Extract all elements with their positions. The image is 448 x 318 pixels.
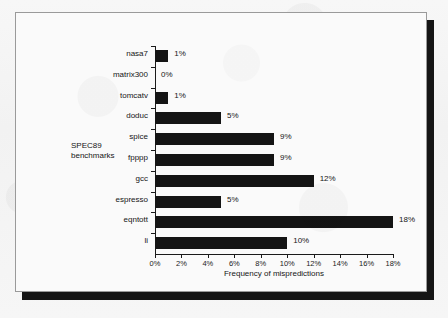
y-axis-title: SPEC89 benchmarks: [71, 141, 115, 161]
bar-value-label: 18%: [399, 215, 415, 224]
bar-value-label: 1%: [174, 49, 186, 58]
y-axis-tick: [151, 88, 155, 89]
bar-row: li10%: [155, 233, 393, 254]
x-axis-tick-label: 0%: [150, 259, 161, 268]
y-axis-title-line-1: SPEC89: [71, 141, 115, 151]
category-label: doduc: [126, 111, 148, 120]
x-axis-tick: [155, 254, 156, 258]
bar: [155, 50, 168, 62]
y-axis-tick: [151, 192, 155, 193]
x-axis-tick: [261, 254, 262, 258]
x-axis-tick: [340, 254, 341, 258]
y-axis-tick: [151, 67, 155, 68]
category-label: li: [144, 236, 148, 245]
x-axis-tick-label: 4%: [202, 259, 213, 268]
x-axis-tick-label: 8%: [255, 259, 266, 268]
bar-row: fpppp9%: [155, 150, 393, 171]
x-axis-tick: [314, 254, 315, 258]
bar-row: doduc5%: [155, 108, 393, 129]
bar-value-label: 5%: [227, 111, 239, 120]
x-axis-tick-label: 18%: [385, 259, 400, 268]
plot-area: nasa71%matrix3000%tomcatv1%doduc5%spice9…: [155, 46, 393, 254]
bar: [155, 133, 274, 145]
bar-value-label: 12%: [320, 174, 336, 183]
bar: [155, 92, 168, 104]
bar: [155, 237, 287, 249]
x-axis-tick-label: 2%: [176, 259, 187, 268]
x-axis-tick: [234, 254, 235, 258]
bar-row: gcc12%: [155, 171, 393, 192]
x-axis-tick-label: 12%: [306, 259, 321, 268]
bar-value-label: 9%: [280, 132, 292, 141]
category-label: eqntott: [124, 215, 148, 224]
y-axis-tick: [151, 108, 155, 109]
y-axis-tick: [151, 150, 155, 151]
bar: [155, 196, 221, 208]
y-axis-tick: [151, 212, 155, 213]
y-axis-tick: [151, 46, 155, 47]
bar: [155, 175, 314, 187]
y-axis-title-line-2: benchmarks: [71, 151, 115, 161]
bar: [155, 216, 393, 228]
category-label: gcc: [136, 174, 148, 183]
x-axis-tick-label: 14%: [333, 259, 348, 268]
category-label: tomcatv: [120, 91, 148, 100]
bar-value-label: 1%: [174, 91, 186, 100]
y-axis-tick: [151, 129, 155, 130]
category-label: nasa7: [126, 49, 148, 58]
x-axis-title: Frequency of mispredictions: [155, 269, 393, 278]
bar: [155, 154, 274, 166]
x-axis-tick: [393, 254, 394, 258]
bar-value-label: 9%: [280, 153, 292, 162]
bar-row: espresso5%: [155, 192, 393, 213]
category-label: matrix300: [113, 70, 148, 79]
x-axis-tick: [208, 254, 209, 258]
figure-frame: SPEC89 benchmarks nasa71%matrix3000%tomc…: [15, 12, 427, 292]
category-label: spice: [129, 132, 148, 141]
x-axis-tick: [181, 254, 182, 258]
bar-value-label: 10%: [293, 236, 309, 245]
category-label: espresso: [116, 195, 148, 204]
x-axis-tick: [367, 254, 368, 258]
x-axis-line: [155, 254, 393, 255]
bar-value-label: 0%: [161, 70, 173, 79]
category-label: fpppp: [128, 153, 148, 162]
x-axis-tick-label: 16%: [359, 259, 374, 268]
y-axis-tick: [151, 233, 155, 234]
bar-row: matrix3000%: [155, 67, 393, 88]
x-axis-tick: [287, 254, 288, 258]
bar-row: eqntott18%: [155, 212, 393, 233]
x-axis-tick-label: 6%: [229, 259, 240, 268]
bar-row: spice9%: [155, 129, 393, 150]
y-axis-tick: [151, 171, 155, 172]
bar-value-label: 5%: [227, 195, 239, 204]
x-axis-tick-label: 10%: [280, 259, 295, 268]
bar-row: nasa71%: [155, 46, 393, 67]
bar-row: tomcatv1%: [155, 88, 393, 109]
bar: [155, 112, 221, 124]
